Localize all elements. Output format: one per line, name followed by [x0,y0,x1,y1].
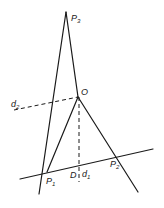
label-d: D [70,170,77,180]
dashed-line-d2 [14,97,78,110]
label-p3: P3 [71,13,81,24]
label-d2: d2 [11,99,20,110]
line-p3-p1 [39,12,66,194]
label-o: O [81,87,88,97]
geometry-diagram: P3 O d2 P1 D d1 P2 [0,0,164,208]
label-p1: P1 [46,176,55,187]
line-p3-o [66,12,78,97]
label-d1: d1 [82,169,90,180]
